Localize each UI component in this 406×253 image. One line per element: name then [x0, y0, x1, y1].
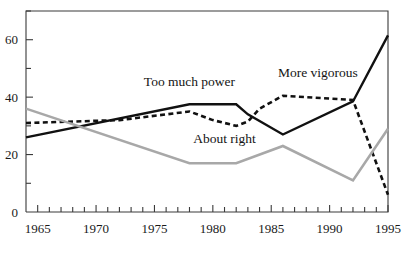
x-tick-label: 1970: [83, 221, 109, 236]
x-tick-label: 1975: [141, 221, 167, 236]
y-tick-label: 20: [5, 147, 18, 162]
x-tick-label: 1985: [258, 221, 284, 236]
series-annotation: Too much power: [144, 74, 236, 89]
chart-background: [0, 0, 406, 253]
y-tick-label: 40: [5, 90, 18, 105]
series-annotation: About right: [193, 131, 256, 146]
line-chart: 0204060 1965197019751980198519901995 Too…: [0, 0, 406, 253]
x-tick-label: 1995: [375, 221, 401, 236]
x-tick-label: 1990: [317, 221, 343, 236]
x-tick-label: 1980: [200, 221, 226, 236]
series-annotation: More vigorous: [278, 65, 358, 80]
y-tick-label: 60: [5, 32, 18, 47]
chart-canvas: 0204060 1965197019751980198519901995 Too…: [0, 0, 406, 253]
y-tick-label: 0: [12, 205, 19, 220]
x-tick-label: 1965: [25, 221, 51, 236]
